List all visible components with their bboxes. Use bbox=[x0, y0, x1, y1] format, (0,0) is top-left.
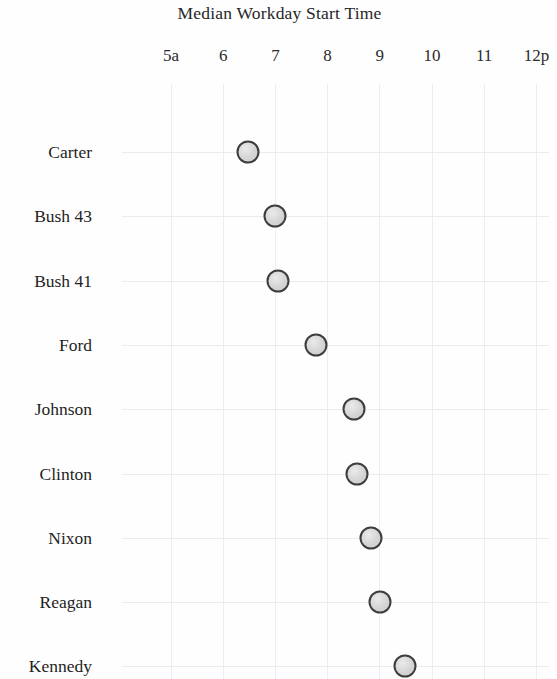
category-label-ford: Ford bbox=[59, 334, 92, 355]
gridline-vertical bbox=[327, 84, 328, 679]
gridline-horizontal bbox=[122, 602, 549, 603]
gridline-vertical bbox=[171, 84, 172, 679]
chart-title-text: Median Workday Start Time bbox=[177, 3, 381, 23]
data-point-clinton[interactable] bbox=[345, 462, 368, 485]
gridline-horizontal bbox=[122, 152, 549, 153]
category-label-bush-41: Bush 41 bbox=[34, 270, 92, 291]
data-point-ford[interactable] bbox=[305, 333, 328, 356]
gridline-horizontal bbox=[122, 474, 549, 475]
gridline-horizontal bbox=[122, 538, 549, 539]
gridline-horizontal bbox=[122, 666, 549, 667]
gridline-vertical bbox=[484, 84, 485, 679]
category-label-nixon: Nixon bbox=[48, 527, 92, 548]
chart-title: Median Workday Start Time bbox=[0, 3, 557, 24]
category-label-johnson: Johnson bbox=[35, 399, 92, 420]
category-label-clinton: Clinton bbox=[39, 463, 92, 484]
category-label-bush-43: Bush 43 bbox=[34, 206, 92, 227]
data-point-bush-43[interactable] bbox=[263, 205, 286, 228]
gridline-vertical bbox=[275, 84, 276, 679]
gridline-vertical bbox=[432, 84, 433, 679]
data-point-nixon[interactable] bbox=[359, 526, 382, 549]
chart-container: CarterBush 43Bush 41FordJohnsonClintonNi… bbox=[0, 0, 557, 679]
category-label-reagan: Reagan bbox=[40, 592, 92, 613]
gridline-horizontal bbox=[122, 281, 549, 282]
gridline-vertical bbox=[536, 84, 537, 679]
data-point-carter[interactable] bbox=[236, 141, 259, 164]
gridline-horizontal bbox=[122, 216, 549, 217]
gridline-horizontal bbox=[122, 409, 549, 410]
category-label-carter: Carter bbox=[48, 142, 92, 163]
plot-area: CarterBush 43Bush 41FordJohnsonClintonNi… bbox=[0, 0, 557, 679]
data-point-kennedy[interactable] bbox=[393, 655, 416, 678]
data-point-reagan[interactable] bbox=[368, 591, 391, 614]
category-label-kennedy: Kennedy bbox=[29, 656, 92, 677]
data-point-johnson[interactable] bbox=[343, 398, 366, 421]
gridline-horizontal bbox=[122, 345, 549, 346]
gridline-vertical bbox=[223, 84, 224, 679]
data-point-bush-41[interactable] bbox=[267, 269, 290, 292]
